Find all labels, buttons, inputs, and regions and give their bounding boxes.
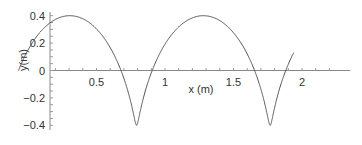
x-tick-label: 0.5 — [89, 76, 104, 88]
trajectory-chart: 0.40.20−0.2−0.4 0.511.52 y(m) x (m) — [0, 0, 362, 145]
y-tick-label: 0 — [39, 65, 45, 77]
x-axis-label: x (m) — [188, 83, 213, 95]
y-tick-label: 0.4 — [30, 10, 45, 22]
y-tick-label: −0.4 — [23, 119, 45, 131]
y-tick-label: −0.2 — [23, 92, 45, 104]
x-tick-label: 2 — [299, 76, 305, 88]
x-tick-label: 1.5 — [226, 76, 241, 88]
x-tick-label: 1 — [162, 76, 168, 88]
